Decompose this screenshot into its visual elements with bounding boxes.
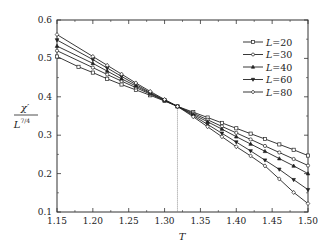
triangle-down-marker xyxy=(249,150,253,153)
circle-marker xyxy=(252,53,255,56)
circle-marker xyxy=(306,164,309,167)
circle-marker xyxy=(91,66,94,69)
triangle-down-marker xyxy=(251,78,254,81)
legend-item: L=30 xyxy=(243,49,292,60)
y-axis-label: χ′ L7/4 xyxy=(13,102,38,130)
legend-label: L=30 xyxy=(265,49,292,60)
triangle-up-marker xyxy=(251,65,254,68)
legend: L=20L=30L=40L=60L=80 xyxy=(243,37,292,98)
x-tick-label: 1.35 xyxy=(190,216,210,226)
diamond-marker xyxy=(235,145,239,149)
circle-marker xyxy=(106,73,109,76)
circle-marker xyxy=(235,131,238,134)
triangle-down-marker xyxy=(235,141,239,144)
legend-item: L=20 xyxy=(243,37,292,48)
y-tick-label: 0.5 xyxy=(38,53,53,63)
legend-label: L=40 xyxy=(265,62,292,73)
square-marker xyxy=(292,148,295,151)
triangle-up-marker xyxy=(249,142,253,145)
square-marker xyxy=(249,132,252,135)
triangle-down-marker xyxy=(306,188,310,191)
square-marker xyxy=(278,143,281,146)
y-tick-label: 0.6 xyxy=(38,15,53,25)
triangle-down-marker xyxy=(292,178,296,181)
y-axis-label-denominator: L7/4 xyxy=(13,117,30,130)
diamond-marker xyxy=(220,135,224,139)
triangle-down-marker xyxy=(55,39,59,42)
circle-marker xyxy=(55,49,58,52)
square-marker xyxy=(55,55,58,58)
square-marker xyxy=(106,77,109,80)
y-tick-label: 0.4 xyxy=(38,92,53,102)
triangle-up-marker xyxy=(263,149,267,152)
square-marker xyxy=(77,65,80,68)
x-tick-label: 1.45 xyxy=(262,216,282,226)
triangle-down-marker xyxy=(263,159,267,162)
x-axis-label: T xyxy=(179,231,187,242)
y-tick-label: 0.1 xyxy=(38,207,52,217)
circle-marker xyxy=(278,151,281,154)
square-marker xyxy=(306,154,309,157)
y-tick-label: 0.3 xyxy=(38,130,53,140)
x-tick-label: 1.15 xyxy=(47,216,67,226)
x-tick-label: 1.50 xyxy=(298,216,318,226)
legend-label: L=80 xyxy=(265,87,292,98)
circle-marker xyxy=(249,138,252,141)
legend-label: L=60 xyxy=(265,74,292,85)
triangle-up-marker xyxy=(55,44,59,47)
y-tick-label: 0.2 xyxy=(38,169,52,179)
triangle-up-marker xyxy=(306,172,310,175)
triangle-up-marker xyxy=(292,164,296,167)
x-tick-label: 1.40 xyxy=(226,216,246,226)
diamond-marker xyxy=(55,33,59,37)
diamond-marker xyxy=(249,154,253,158)
y-axis-label-numerator: χ′ xyxy=(20,102,30,113)
legend-label: L=20 xyxy=(265,37,292,48)
diamond-marker xyxy=(251,90,254,94)
square-marker xyxy=(91,71,94,74)
chart: 1.151.201.251.301.351.401.451.500.10.20.… xyxy=(0,0,334,249)
legend-item: L=60 xyxy=(243,74,292,85)
square-marker xyxy=(220,121,223,124)
legend-item: L=40 xyxy=(243,62,292,73)
x-tick-label: 1.20 xyxy=(83,216,103,226)
square-marker xyxy=(263,137,266,140)
x-tick-label: 1.25 xyxy=(119,216,139,226)
circle-marker xyxy=(263,144,266,147)
circle-marker xyxy=(292,157,295,160)
x-tick-label: 1.30 xyxy=(155,216,175,226)
triangle-up-marker xyxy=(278,157,282,160)
legend-item: L=80 xyxy=(243,87,292,98)
triangle-up-marker xyxy=(235,135,239,138)
square-marker xyxy=(252,41,255,44)
square-marker xyxy=(235,127,238,130)
square-marker xyxy=(120,83,123,86)
